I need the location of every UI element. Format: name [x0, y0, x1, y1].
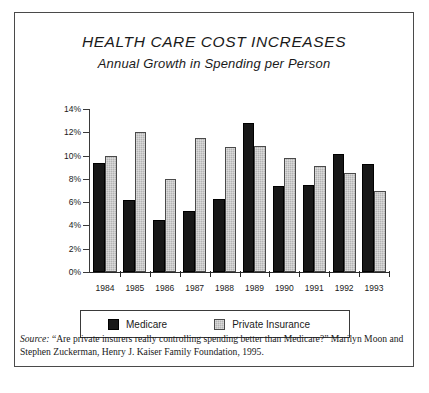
bar-group — [240, 109, 270, 272]
x-tick-label: 1985 — [125, 283, 144, 293]
bar-group — [90, 109, 120, 272]
bar-series-container: 1984198519861987198819891990199119921993 — [90, 109, 389, 272]
source-label: Source: — [20, 333, 49, 344]
y-tick-label: 14% — [51, 104, 81, 114]
legend-swatch-private-insurance — [214, 319, 225, 330]
y-tick — [83, 179, 90, 180]
chart-title: HEALTH CARE COST INCREASES — [15, 33, 413, 51]
x-tick-label: 1989 — [245, 283, 264, 293]
x-tick-label: 1987 — [185, 283, 204, 293]
y-tick — [83, 272, 90, 273]
chart-frame: HEALTH CARE COST INCREASES Annual Growth… — [14, 12, 414, 367]
x-tick-label: 1984 — [95, 283, 114, 293]
bar-private-insurance — [165, 179, 177, 272]
x-tick — [389, 271, 390, 277]
bar-group — [210, 109, 240, 272]
bar-private-insurance — [195, 138, 207, 272]
legend-item-medicare: Medicare — [108, 319, 167, 330]
bar-medicare — [333, 154, 345, 272]
bar-private-insurance — [314, 166, 326, 272]
bar-group — [120, 109, 150, 272]
legend-label-medicare: Medicare — [126, 319, 167, 330]
y-tick — [83, 249, 90, 250]
x-tick-label: 1991 — [305, 283, 324, 293]
bar-medicare — [93, 163, 105, 272]
bar-group — [299, 109, 329, 272]
bar-group — [269, 109, 299, 272]
bar-private-insurance — [284, 158, 296, 272]
x-tick-label: 1993 — [365, 283, 384, 293]
y-tick-label: 8% — [51, 174, 81, 184]
y-tick — [83, 132, 90, 133]
y-tick-label: 0% — [51, 267, 81, 277]
bar-medicare — [123, 200, 135, 272]
bar-medicare — [303, 185, 315, 272]
source-text: “Are private insurers really controlling… — [20, 333, 403, 357]
legend-label-private-insurance: Private Insurance — [232, 319, 310, 330]
bar-private-insurance — [135, 132, 147, 272]
plot-area: 0%2%4%6%8%10%12%14% 19841985198619871988… — [89, 109, 389, 272]
x-tick-label: 1990 — [275, 283, 294, 293]
legend-item-private-insurance: Private Insurance — [214, 319, 310, 330]
bar-private-insurance — [105, 156, 117, 272]
bar-group — [150, 109, 180, 272]
y-tick-label: 2% — [51, 244, 81, 254]
y-tick-label: 6% — [51, 197, 81, 207]
x-tick-label: 1992 — [335, 283, 354, 293]
y-tick-label: 12% — [51, 127, 81, 137]
bar-medicare — [213, 199, 225, 272]
y-tick — [83, 156, 90, 157]
bar-medicare — [273, 186, 285, 272]
source-note: Source: “Are private insurers really con… — [20, 333, 412, 359]
bar-private-insurance — [225, 147, 237, 272]
bar-group — [180, 109, 210, 272]
x-tick-label: 1986 — [155, 283, 174, 293]
x-tick-label: 1988 — [215, 283, 234, 293]
bar-group — [359, 109, 389, 272]
bar-group — [329, 109, 359, 272]
y-tick-label: 10% — [51, 151, 81, 161]
bar-private-insurance — [344, 173, 356, 272]
title-block: HEALTH CARE COST INCREASES Annual Growth… — [15, 33, 413, 71]
bar-private-insurance — [254, 146, 266, 272]
legend-swatch-medicare — [108, 319, 119, 330]
y-tick-label: 4% — [51, 220, 81, 230]
bar-medicare — [243, 123, 255, 272]
bar-medicare — [153, 220, 165, 272]
bar-private-insurance — [374, 191, 386, 273]
bar-medicare — [362, 164, 374, 272]
y-tick — [83, 109, 90, 110]
chart-subtitle: Annual Growth in Spending per Person — [15, 56, 413, 71]
y-tick — [83, 225, 90, 226]
bar-medicare — [183, 211, 195, 272]
y-tick — [83, 202, 90, 203]
